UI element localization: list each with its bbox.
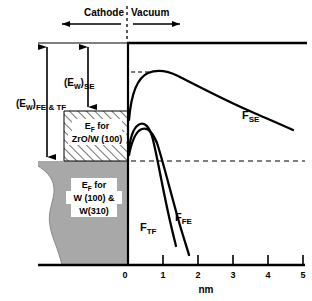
- cathode-label: Cathode: [84, 7, 124, 18]
- x-tick-label-4: 4: [265, 270, 270, 280]
- x-axis-unit-label: nm: [199, 284, 214, 295]
- se-subscript-se: SE: [84, 82, 95, 91]
- x-tick-label-2: 2: [195, 270, 200, 280]
- w-ef-material-line2: W(310): [79, 206, 109, 216]
- zrow-ef-for: for: [95, 121, 110, 131]
- x-tick-label-0: 0: [122, 270, 127, 280]
- se-open-paren: (E: [64, 77, 74, 88]
- zrow-fermi-label: EF for ZrO/W (100): [68, 119, 126, 145]
- w-ef-material-line1: W (100) &: [73, 193, 115, 203]
- x-tick-label-3: 3: [230, 270, 235, 280]
- x-tick-label-1: 1: [160, 270, 165, 280]
- f-fe-subscript: FE: [182, 217, 193, 226]
- zrow-ef-material: ZrO/W (100): [72, 134, 123, 144]
- svg-text:EF for: EF for: [85, 121, 110, 133]
- fetf-subscript-fetf: FE & TF: [36, 103, 66, 112]
- f-tf-subscript: TF: [147, 227, 157, 236]
- energy-band-diagram: Cathode Vacuum (EW)SE (EW)FE & TF: [0, 0, 312, 301]
- fetf-open-paren: (E: [16, 98, 26, 109]
- f-se-subscript: SE: [249, 115, 260, 124]
- x-tick-label-5: 5: [300, 270, 305, 280]
- w-ef-for: for: [92, 180, 107, 190]
- svg-text:EF for: EF for: [82, 180, 107, 192]
- vacuum-label: Vacuum: [131, 7, 169, 18]
- w-fermi-label: EF for W (100) & W(310): [66, 178, 122, 217]
